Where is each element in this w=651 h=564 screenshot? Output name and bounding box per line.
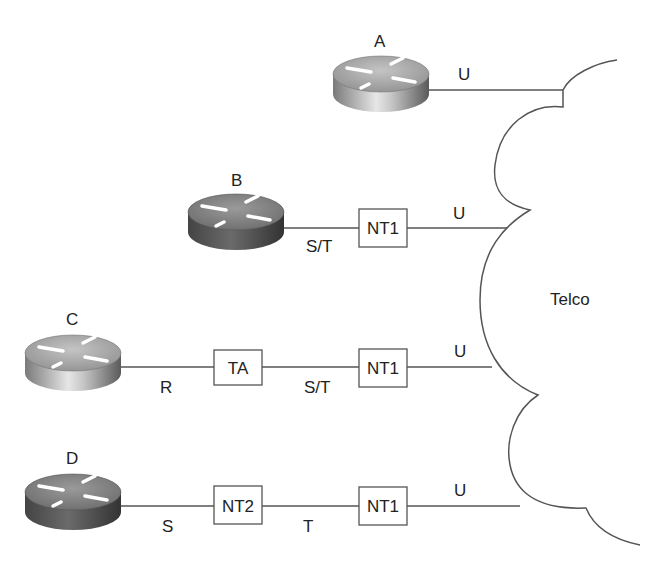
c-nt1-label: NT1 [367,359,399,378]
router-b [188,194,284,250]
c-st-label: S/T [304,378,330,397]
router-a [333,56,429,112]
c-u-label: U [454,342,466,361]
isdn-reference-diagram: Telco A U B S/T NT1 U C R TA S/T NT1 U [0,0,651,564]
d-s-label: S [162,517,173,536]
router-d-label: D [66,449,78,468]
b-st-label: S/T [306,237,332,256]
telco-label: Telco [550,290,590,309]
d-u-label: U [454,481,466,500]
d-t-label: T [303,517,313,536]
router-b-label: B [231,171,242,190]
b-u-label: U [453,204,465,223]
b-nt1-label: NT1 [367,219,399,238]
router-c-label: C [66,310,78,329]
a-u-label: U [458,65,470,84]
c-r-label: R [160,378,172,397]
c-ta-label: TA [228,359,249,378]
router-a-label: A [374,32,386,51]
router-c [25,335,121,391]
router-d [25,474,121,530]
d-nt2-label: NT2 [222,497,254,516]
d-nt1-label: NT1 [367,497,399,516]
